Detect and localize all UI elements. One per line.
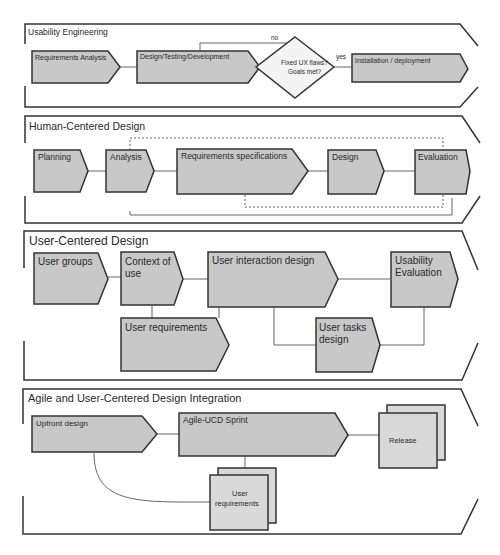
label-context-of-use-line2: use [125,268,141,280]
label-requirements-analysis: Requirements Analysis [35,54,106,62]
label-user-requirements-line1: User [232,490,248,499]
label-context-of-use-line1: Context of [125,256,171,268]
edge-label-no: no [271,34,278,41]
label-requirements-specifications: Requirements specifications [181,152,287,162]
label-agile-ucd-sprint: Agile-UCD Sprint [183,416,248,426]
label-user-interaction-design: User interaction design [212,255,314,267]
band-title-user-centered-design: User-Centered Design [29,234,148,248]
label-user-tasks-design-line2: design [319,334,348,346]
band-title-usability-engineering: Usability Engineering [28,27,108,37]
label-upfront-design: Upfront design [36,419,88,428]
label-user-requirements: User requirements [125,322,207,334]
label-installation-deployment: Installation / deployment [355,57,431,65]
label-usability-evaluation-line2: Evaluation [395,267,442,279]
label-analysis: Analysis [110,153,142,163]
label-decision-line2: Goals met? [288,68,321,75]
label-design: Design [332,153,358,163]
label-release: Release [389,437,417,446]
label-decision-line1: Fixed UX flaws? [281,59,328,66]
label-planning: Planning [38,153,71,163]
label-user-requirements-line2: requirements [215,500,259,509]
label-user-groups: User groups [38,256,92,268]
band-title-human-centered-design: Human-Centered Design [29,120,145,132]
label-design-testing-development: Design/Testing/Development [140,53,229,61]
label-evaluation: Evaluation [418,153,458,163]
band-title-agile-ucd-integration: Agile and User-Centered Design Integrati… [28,392,241,404]
edge-label-yes: yes [336,53,346,60]
label-usability-evaluation-line1: Usability [395,255,433,267]
label-user-tasks-design-line1: User tasks [319,322,366,334]
